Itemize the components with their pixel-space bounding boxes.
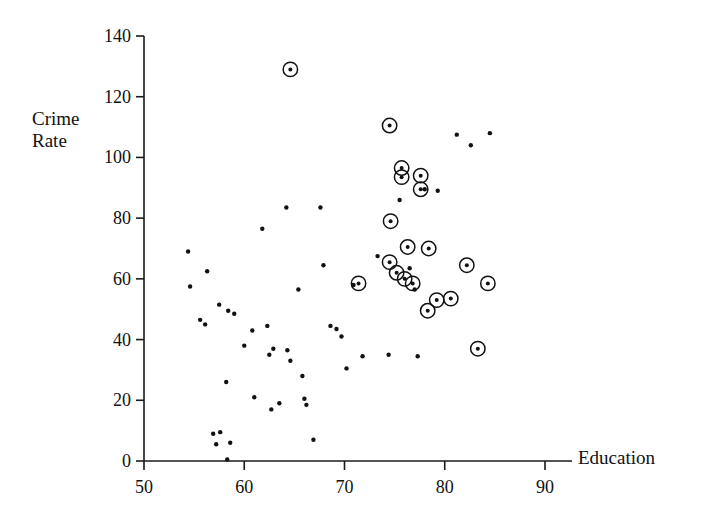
data-point (267, 353, 271, 357)
point-dot (406, 245, 410, 249)
data-point (311, 438, 315, 442)
circled-data-point (421, 304, 435, 318)
data-point (277, 401, 281, 405)
point-dot (388, 124, 392, 128)
point-dot (465, 263, 469, 267)
circled-data-point (283, 62, 297, 76)
data-point (203, 322, 207, 326)
circled-data-point (471, 341, 485, 355)
point-dot (476, 347, 480, 351)
data-point (285, 348, 289, 352)
data-point (205, 269, 209, 273)
circled-data-point (394, 170, 408, 184)
data-point (339, 334, 343, 338)
data-point (386, 353, 390, 357)
point-dot (486, 281, 490, 285)
data-point (198, 318, 202, 322)
circled-data-point (481, 276, 495, 290)
point-dot (419, 174, 423, 178)
axis-group (144, 36, 572, 461)
point-dot (400, 175, 404, 179)
circled-data-point (422, 241, 436, 255)
data-points-group (186, 62, 495, 461)
data-point (375, 254, 379, 258)
data-point (232, 312, 236, 316)
point-dot (357, 281, 361, 285)
circled-data-point (405, 276, 419, 290)
circled-data-point (413, 168, 427, 182)
data-point (469, 143, 473, 147)
point-dot (388, 260, 392, 264)
data-point (214, 442, 218, 446)
point-dot (389, 219, 393, 223)
data-point (300, 374, 304, 378)
data-point (250, 328, 254, 332)
data-point (423, 187, 427, 191)
tick-marks-group (136, 36, 545, 470)
data-point (271, 346, 275, 350)
data-point (188, 284, 192, 288)
data-point (488, 131, 492, 135)
data-point (328, 324, 332, 328)
data-point (296, 287, 300, 291)
data-point (284, 205, 288, 209)
data-point (344, 366, 348, 370)
data-point (302, 397, 306, 401)
data-point (407, 266, 411, 270)
circled-data-point (444, 291, 458, 305)
point-dot (288, 67, 292, 71)
data-point (218, 430, 222, 434)
data-point (436, 189, 440, 193)
data-point (334, 327, 338, 331)
plot-canvas (0, 0, 705, 522)
data-point (211, 431, 215, 435)
point-dot (449, 297, 453, 301)
data-point (304, 403, 308, 407)
data-point (321, 263, 325, 267)
circled-data-point (383, 214, 397, 228)
data-point (186, 249, 190, 253)
data-point (265, 324, 269, 328)
circled-data-point (382, 255, 396, 269)
point-dot (427, 247, 431, 251)
data-point (225, 457, 229, 461)
circled-data-point (382, 118, 396, 132)
data-point (252, 395, 256, 399)
data-point (397, 198, 401, 202)
data-point (360, 354, 364, 358)
point-dot (419, 187, 423, 191)
data-point (217, 302, 221, 306)
data-point (228, 441, 232, 445)
data-point (455, 132, 459, 136)
data-point (318, 205, 322, 209)
circled-data-point (400, 240, 414, 254)
data-point (269, 407, 273, 411)
point-dot (435, 298, 439, 302)
point-dot (426, 309, 430, 313)
data-point (288, 359, 292, 363)
point-dot (395, 271, 399, 275)
point-dot (411, 281, 415, 285)
data-point (242, 343, 246, 347)
data-point (415, 354, 419, 358)
data-point (260, 227, 264, 231)
data-point (226, 309, 230, 313)
circled-data-point (460, 258, 474, 272)
scatter-plot-figure: CrimeRate Education 020406080100120140 5… (0, 0, 705, 522)
data-point (224, 380, 228, 384)
